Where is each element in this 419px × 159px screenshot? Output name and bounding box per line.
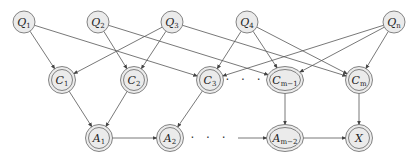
node-cm: Cm xyxy=(346,67,373,94)
node-q4: Q4 xyxy=(236,11,258,33)
node-x: X xyxy=(346,125,373,152)
edge-q2-to-c2 xyxy=(104,31,127,69)
node-label: X xyxy=(354,132,364,145)
node-a1: A1 xyxy=(86,125,113,152)
node-c2: C2 xyxy=(121,67,148,94)
node-qn: Qn xyxy=(383,11,405,33)
node-cm-1: Cm−1 xyxy=(267,67,304,94)
ellipsis-dots-2: · · · xyxy=(190,131,229,145)
node-q3: Q3 xyxy=(161,11,183,33)
node-c3: C3 xyxy=(197,67,224,94)
edge-c2-to-a1 xyxy=(106,91,128,127)
node-q1: Q1 xyxy=(13,11,35,33)
node-c1: C1 xyxy=(49,67,76,94)
edge-q3-to-c1 xyxy=(74,27,163,74)
node-am-2: Am−2 xyxy=(267,125,304,152)
edge-qn-to-cm-1 xyxy=(300,27,385,72)
edge-c3-to-a2 xyxy=(177,91,202,128)
node-a2: A2 xyxy=(157,125,184,152)
ellipsis-dots-1: · · · xyxy=(225,73,264,87)
node-q2: Q2 xyxy=(87,11,109,33)
edge-q1-to-c1 xyxy=(30,31,55,69)
edge-c1-to-a1 xyxy=(69,91,92,127)
bayesian-network-diagram: Q1Q2Q3Q4QnC1C2C3Cm−1CmA1A2Am−2X · · ·· ·… xyxy=(0,0,419,159)
edge-qn-to-cm xyxy=(366,31,389,69)
